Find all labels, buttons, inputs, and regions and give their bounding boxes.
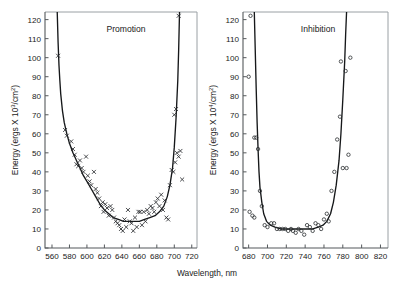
x-tick-label-760: 760 [317, 252, 331, 261]
panel-inhibition: 0102030405060708090100110120680700720740… [208, 12, 388, 261]
data-point [142, 210, 145, 213]
data-point [349, 56, 352, 59]
data-point [300, 229, 303, 232]
data-point [347, 153, 350, 156]
y-axis-title-pre: Energy (ergs X 10 [10, 107, 20, 175]
data-point [159, 193, 162, 196]
data-point [341, 166, 344, 169]
data-point [179, 149, 182, 152]
data-point [152, 210, 155, 213]
data-point [333, 170, 336, 173]
x-tick-label-660: 660 [133, 252, 147, 261]
data-point [133, 216, 136, 219]
plot-axes [243, 12, 388, 248]
x-tick-label-820: 820 [374, 252, 388, 261]
data-point [147, 212, 150, 215]
data-point [146, 208, 149, 211]
y-tick-label-40: 40 [230, 168, 240, 177]
x-axis-title: Wavelength, nm [177, 268, 237, 278]
y-tick-label-60: 60 [32, 130, 42, 139]
y-tick-label-50: 50 [230, 149, 240, 158]
data-point [123, 218, 126, 221]
y-axis-title-post: /cm [10, 91, 20, 105]
data-point [180, 178, 183, 181]
data-point [339, 60, 342, 63]
y-axis-title: Energy (ergs X 103/cm2) [10, 85, 20, 176]
data-point [109, 204, 112, 207]
data-point [125, 225, 128, 228]
y-axis-title-post: /cm [208, 91, 218, 105]
x-tick-label-720: 720 [280, 252, 294, 261]
data-point [144, 220, 147, 223]
y-tick-label-120: 120 [27, 16, 41, 25]
data-point [88, 180, 91, 183]
data-point [175, 151, 178, 154]
data-point [325, 212, 328, 215]
data-point [135, 225, 138, 228]
data-point [132, 229, 135, 232]
y-tick-label-90: 90 [32, 73, 42, 82]
data-point [335, 138, 338, 141]
data-point [303, 233, 306, 236]
data-point [97, 197, 100, 200]
data-point [140, 223, 143, 226]
data-point [156, 197, 159, 200]
y-tick-label-30: 30 [230, 187, 240, 196]
data-point [111, 208, 114, 211]
y-tick-label-120: 120 [225, 16, 239, 25]
y-axis-title: Energy (ergs X 104/cm2) [208, 85, 218, 176]
data-point [319, 227, 322, 230]
data-point [151, 206, 154, 209]
data-point [177, 155, 180, 158]
data-point [322, 218, 325, 221]
data-point [266, 225, 269, 228]
plot-area [247, 12, 352, 236]
data-point [158, 204, 161, 207]
x-tick-label-640: 640 [115, 252, 129, 261]
y-tick-label-110: 110 [28, 35, 41, 44]
y-tick-label-70: 70 [32, 111, 42, 120]
plot-frame [243, 12, 388, 248]
x-tick-label-680: 680 [150, 252, 164, 261]
data-point [166, 218, 169, 221]
x-tick-label-680: 680 [242, 252, 256, 261]
data-point [173, 113, 176, 116]
x-tick-label-740: 740 [298, 252, 312, 261]
x-tick-label-620: 620 [98, 252, 112, 261]
y-axis-title-tail: ) [208, 85, 218, 88]
data-point [248, 210, 251, 213]
data-point [78, 159, 81, 162]
data-point [86, 174, 89, 177]
y-tick-label-0: 0 [36, 244, 41, 253]
data-point [121, 229, 124, 232]
panel-title-promotion: Promotion [106, 24, 145, 34]
fitted-curve [57, 12, 179, 221]
x-tick-label-560: 560 [45, 252, 59, 261]
y-tick-label-90: 90 [230, 73, 240, 82]
action-spectra-figure: 0102030405060708090100110120560580600620… [0, 0, 413, 298]
data-point [126, 208, 129, 211]
data-point [118, 223, 121, 226]
data-point [92, 170, 95, 173]
data-point [70, 140, 73, 143]
panel-promotion: 0102030405060708090100110120560580600620… [10, 12, 199, 261]
data-point [294, 231, 297, 234]
plot-axes [45, 12, 197, 248]
x-tick-label-700: 700 [168, 252, 182, 261]
y-tick-label-10: 10 [230, 225, 240, 234]
data-point [94, 187, 97, 190]
data-point [338, 115, 341, 118]
data-point [345, 166, 348, 169]
data-point [308, 225, 311, 228]
y-tick-label-20: 20 [230, 206, 240, 215]
fitted-curve [254, 12, 346, 229]
series-markers [247, 14, 352, 236]
y-tick-label-80: 80 [230, 92, 240, 101]
plot-frame [45, 12, 197, 248]
data-point [330, 189, 333, 192]
y-tick-label-20: 20 [32, 206, 42, 215]
y-tick-label-30: 30 [32, 187, 42, 196]
y-axis-title-pre: Energy (ergs X 10 [208, 107, 218, 175]
y-tick-label-40: 40 [32, 168, 42, 177]
y-tick-label-50: 50 [32, 149, 42, 158]
